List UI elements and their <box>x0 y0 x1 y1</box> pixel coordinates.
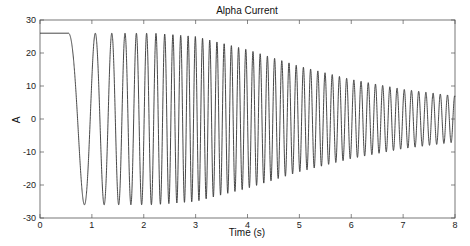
alpha-current-chart: Alpha Current 012345678 -30-20-100102030… <box>0 0 470 246</box>
x-tick-label: 6 <box>349 220 354 230</box>
y-tick-labels: -30-20-100102030 <box>23 15 36 223</box>
y-tick-label: 30 <box>26 15 36 25</box>
x-tick-label: 0 <box>37 220 42 230</box>
y-tick-label: 0 <box>31 114 36 124</box>
x-tick-label: 3 <box>193 220 198 230</box>
y-tick-label: -10 <box>23 147 36 157</box>
y-tick-label: 10 <box>26 81 36 91</box>
x-tick-label: 8 <box>452 220 457 230</box>
x-tick-label: 1 <box>89 220 94 230</box>
y-tick-label: -30 <box>23 213 36 223</box>
chart-title: Alpha Current <box>216 5 278 16</box>
x-tick-label: 5 <box>297 220 302 230</box>
x-tick-label: 7 <box>401 220 406 230</box>
x-tick-label: 2 <box>141 220 146 230</box>
y-tick-label: 20 <box>26 48 36 58</box>
y-axis-label: A <box>11 116 22 123</box>
y-tick-label: -20 <box>23 180 36 190</box>
x-axis-label: Time (s) <box>229 227 265 238</box>
